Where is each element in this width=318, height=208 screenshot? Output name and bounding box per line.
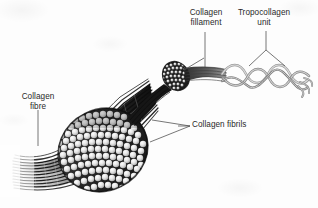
label-collagen-filament: Collagen fillament	[178, 8, 234, 27]
label-collagen-fibre-line2: fibre	[12, 102, 64, 112]
label-collagen-fibre: Collagen fibre	[12, 92, 64, 111]
leader-tropo-right	[266, 50, 285, 66]
label-collagen-fibrils: Collagen fibrils	[192, 120, 262, 130]
label-tropocollagen-line2: unit	[228, 18, 300, 28]
leader-fibrils-upper	[152, 120, 190, 126]
label-collagen-fibre-line1: Collagen	[12, 92, 64, 102]
filament-strand-bundle	[184, 67, 227, 82]
leader-tropo-left	[249, 50, 266, 66]
leader-fibrils-lower	[150, 126, 190, 142]
label-tropocollagen-line1: Tropocollagen	[228, 8, 300, 18]
tropocollagen-triple-helix	[222, 65, 312, 97]
label-collagen-filament-line1: Collagen	[178, 8, 234, 18]
figure-canvas: Collagen fillament Tropocollagen unit Co…	[0, 0, 318, 208]
label-tropocollagen-unit: Tropocollagen unit	[228, 8, 300, 27]
label-collagen-filament-line2: fillament	[178, 18, 234, 28]
